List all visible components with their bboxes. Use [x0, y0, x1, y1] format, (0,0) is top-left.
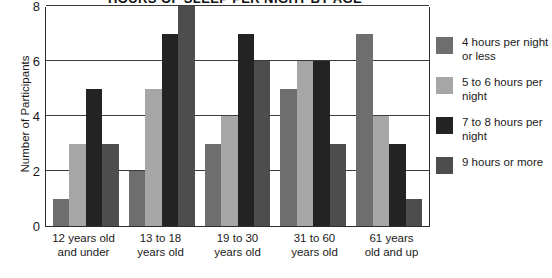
- gridline: [46, 5, 429, 6]
- plot-area: [45, 7, 430, 227]
- bar[interactable]: [313, 61, 329, 226]
- x-category-label: 61 yearsold and up: [353, 232, 430, 259]
- bar-group: [200, 7, 276, 226]
- bar[interactable]: [205, 144, 221, 227]
- bar-group: [275, 7, 351, 226]
- bar[interactable]: [129, 171, 145, 226]
- bar[interactable]: [297, 61, 313, 226]
- chart-legend: 4 hours per night or less5 to 6 hours pe…: [436, 36, 552, 187]
- x-category-label: 31 to 60years old: [276, 232, 353, 259]
- legend-swatch: [436, 157, 453, 174]
- x-category-label: 13 to 18years old: [122, 232, 199, 259]
- bar[interactable]: [330, 144, 346, 227]
- legend-label: 5 to 6 hours per night: [462, 76, 552, 103]
- bar[interactable]: [238, 34, 254, 227]
- bar[interactable]: [356, 34, 372, 227]
- legend-swatch: [436, 117, 453, 134]
- y-axis-ticks: 02468: [12, 0, 40, 278]
- chart-root: HOURS OF SLEEP PER NIGHT BY AGE Number o…: [0, 0, 552, 278]
- bar[interactable]: [162, 34, 178, 227]
- bar[interactable]: [86, 89, 102, 227]
- bar-group: [124, 7, 200, 226]
- legend-swatch: [436, 37, 453, 54]
- bar[interactable]: [178, 6, 194, 226]
- legend-label: 4 hours per night or less: [462, 36, 552, 63]
- legend-label: 9 hours or more: [462, 156, 543, 170]
- y-tick-label: 6: [14, 55, 40, 68]
- bar[interactable]: [389, 144, 405, 227]
- legend-item[interactable]: 7 to 8 hours per night: [436, 116, 552, 143]
- legend-item[interactable]: 9 hours or more: [436, 156, 552, 174]
- bar-groups: [46, 7, 429, 226]
- bar[interactable]: [145, 89, 161, 227]
- legend-item[interactable]: 4 hours per night or less: [436, 36, 552, 63]
- bar-group: [351, 7, 427, 226]
- bar[interactable]: [53, 199, 69, 227]
- y-tick-label: 4: [14, 110, 40, 123]
- y-tick-label: 2: [14, 165, 40, 178]
- bar[interactable]: [406, 199, 422, 227]
- bar[interactable]: [254, 61, 270, 226]
- bar-group: [48, 7, 124, 226]
- x-category-label: 19 to 30years old: [199, 232, 276, 259]
- bar[interactable]: [280, 89, 296, 227]
- bar[interactable]: [102, 144, 118, 227]
- legend-label: 7 to 8 hours per night: [462, 116, 552, 143]
- x-axis-labels: 12 years oldand under13 to 18years old19…: [45, 232, 430, 259]
- x-category-label: 12 years oldand under: [45, 232, 122, 259]
- bar[interactable]: [69, 144, 85, 227]
- bar[interactable]: [373, 116, 389, 226]
- y-tick-label: 0: [14, 220, 40, 233]
- legend-item[interactable]: 5 to 6 hours per night: [436, 76, 552, 103]
- y-tick-label: 8: [14, 0, 40, 13]
- bar[interactable]: [221, 116, 237, 226]
- legend-swatch: [436, 77, 453, 94]
